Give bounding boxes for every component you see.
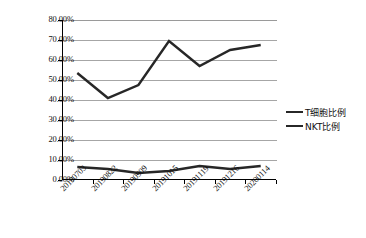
y-tick-label: 30.00% — [14, 114, 74, 124]
y-tick-label: 10.00% — [14, 154, 74, 164]
y-tick-label: 70.00% — [14, 34, 74, 44]
legend-item[interactable]: NKT比例 — [286, 120, 366, 132]
legend-swatch-icon — [286, 125, 303, 128]
y-tick-label: 50.00% — [14, 74, 74, 84]
y-tick-label: 60.00% — [14, 54, 74, 64]
series-line-1 — [77, 41, 260, 98]
legend-swatch-icon — [286, 111, 303, 114]
legend-label: T细胞比例 — [305, 106, 347, 119]
legend-label: NKT比例 — [305, 120, 340, 133]
y-tick-label: 40.00% — [14, 94, 74, 104]
y-tick-label: 80.00% — [14, 14, 74, 24]
y-tick-label: 20.00% — [14, 134, 74, 144]
legend: T细胞比例NKT比例 — [286, 106, 366, 134]
line-chart: T细胞比例NKT比例 0.00%10.00%20.00%30.00%40.00%… — [0, 0, 366, 238]
x-tick-mark — [276, 180, 277, 184]
legend-item[interactable]: T细胞比例 — [286, 106, 366, 118]
